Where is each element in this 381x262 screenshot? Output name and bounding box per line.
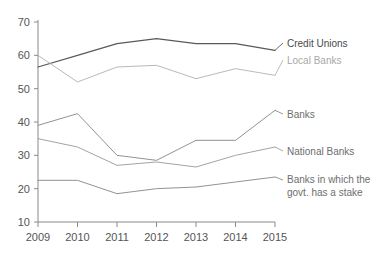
annotation-banks: Banks (287, 109, 315, 120)
annotation-govt-stake-line2: govt. has a stake (287, 187, 363, 198)
x-tick-label: 2015 (263, 231, 287, 243)
y-tick-label: 40 (18, 116, 30, 128)
y-tick-label: 50 (18, 83, 30, 95)
line-chart: 10203040506070 2009201020112012201320142… (0, 0, 381, 262)
annotation-govt-stake-line1: Banks in which the (287, 174, 371, 185)
chart-canvas: 10203040506070 2009201020112012201320142… (0, 0, 381, 262)
y-tick-label: 60 (18, 49, 30, 61)
y-tick-label: 10 (18, 216, 30, 228)
annotation-local-banks: Local Banks (287, 55, 341, 66)
y-tick-label: 30 (18, 149, 30, 161)
x-tick-label: 2010 (65, 231, 89, 243)
annotation-credit-unions: Credit Unions (287, 38, 348, 49)
y-tick-label: 20 (18, 183, 30, 195)
x-tick-label: 2013 (184, 231, 208, 243)
x-tick-label: 2009 (26, 231, 50, 243)
y-tick-label: 70 (18, 16, 30, 28)
x-tick-label: 2012 (144, 231, 168, 243)
x-tick-label: 2011 (105, 231, 129, 243)
annotation-national-banks: National Banks (287, 146, 354, 157)
x-tick-label: 2014 (223, 231, 247, 243)
